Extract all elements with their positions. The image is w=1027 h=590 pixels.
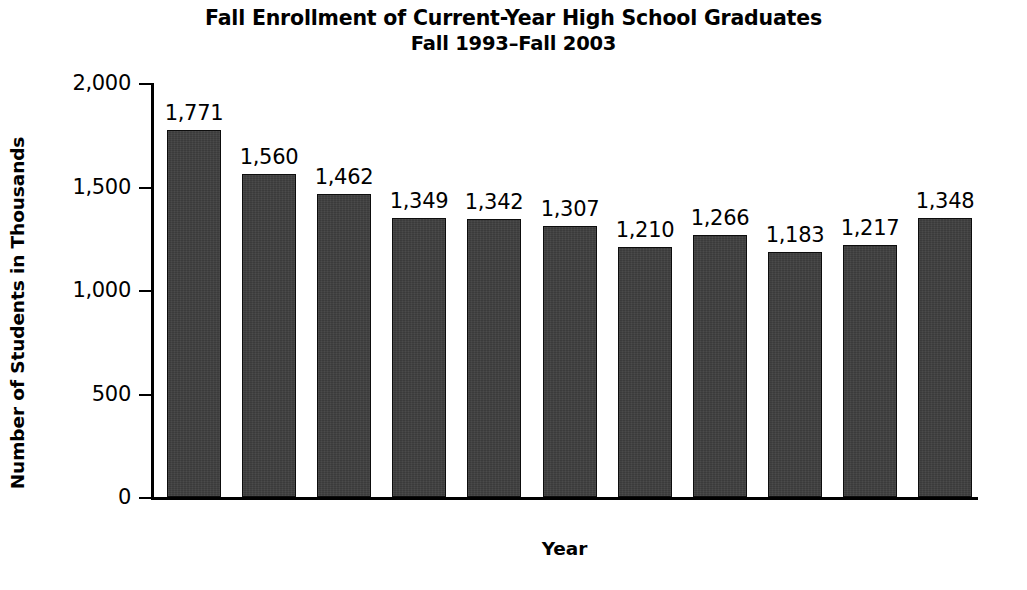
bar[interactable]: [317, 194, 371, 497]
bar-value-label: 1,349: [379, 189, 459, 213]
y-axis-tick-label: 0: [11, 485, 131, 509]
bar-value-label: 1,462: [304, 165, 384, 189]
y-axis-tick: [139, 187, 151, 189]
chart-title-block: Fall Enrollment of Current-Year High Sch…: [0, 6, 1027, 56]
chart-figure: Fall Enrollment of Current-Year High Sch…: [0, 0, 1027, 590]
bar-value-label: 1,348: [905, 189, 985, 213]
bar[interactable]: [918, 218, 972, 497]
bar[interactable]: [843, 245, 897, 497]
bar[interactable]: [242, 174, 296, 497]
bar-value-label: 1,560: [229, 145, 309, 169]
bar[interactable]: [618, 247, 672, 497]
y-axis-tick: [139, 497, 151, 499]
y-axis-tick-label: 1,000: [11, 278, 131, 302]
plot-area: 2,0001,5001,0005000 1,77119931,56019941,…: [151, 83, 978, 497]
chart-title: Fall Enrollment of Current-Year High Sch…: [0, 6, 1027, 31]
chart-subtitle: Fall 1993–Fall 2003: [0, 31, 1027, 56]
y-axis-tick-label: 1,500: [11, 175, 131, 199]
bar-value-label: 1,183: [755, 223, 835, 247]
x-axis-title: Year: [151, 538, 978, 559]
x-axis-line: [151, 497, 978, 500]
bar-value-label: 1,342: [454, 190, 534, 214]
y-axis-tick: [139, 83, 151, 85]
bar[interactable]: [543, 226, 597, 497]
bar[interactable]: [693, 235, 747, 497]
bar-value-label: 1,210: [605, 218, 685, 242]
bar[interactable]: [167, 130, 221, 497]
bar-value-label: 1,266: [680, 206, 760, 230]
bar-value-label: 1,217: [830, 216, 910, 240]
y-axis-tick-label: 500: [11, 382, 131, 406]
bar[interactable]: [392, 218, 446, 497]
y-axis-tick: [139, 290, 151, 292]
bar-value-label: 1,307: [530, 197, 610, 221]
bar-value-label: 1,771: [154, 101, 234, 125]
bar[interactable]: [768, 252, 822, 497]
bar-series: 1,77119931,56019941,46219951,34919961,34…: [151, 83, 978, 497]
bar[interactable]: [467, 219, 521, 497]
y-axis-tick: [139, 394, 151, 396]
y-axis-tick-label: 2,000: [11, 71, 131, 95]
